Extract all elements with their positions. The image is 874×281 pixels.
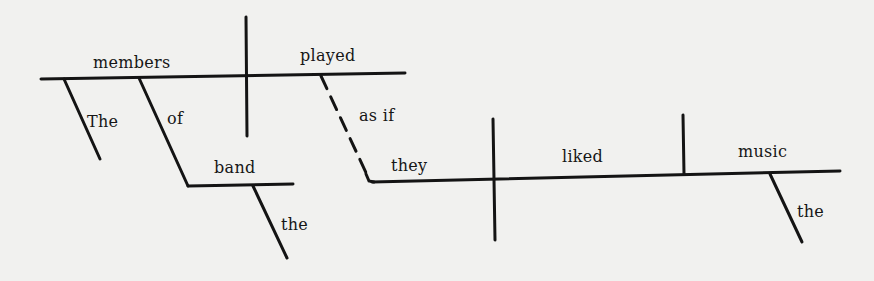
word-as-if: as if xyxy=(359,108,394,124)
word-members: members xyxy=(93,55,170,71)
sentence-diagram: members played The of band the as if the… xyxy=(0,0,874,281)
verb-object-divider xyxy=(683,115,684,174)
main-subject-verb-divider xyxy=(246,17,247,136)
subordinate-subject-verb-divider xyxy=(493,119,495,240)
diagram-lines xyxy=(0,0,874,281)
word-band: band xyxy=(214,160,256,176)
word-liked: liked xyxy=(562,149,603,165)
word-of: of xyxy=(167,111,183,127)
word-music: music xyxy=(738,144,787,160)
as-if-connector-dashed xyxy=(321,76,368,177)
word-they: they xyxy=(391,158,427,174)
band-object-line xyxy=(188,184,293,186)
word-the-band: the xyxy=(281,217,308,233)
word-The: The xyxy=(87,114,118,130)
word-the-music: the xyxy=(797,204,824,220)
of-preposition-slant xyxy=(139,78,188,186)
main-baseline xyxy=(41,73,405,79)
word-played: played xyxy=(300,48,355,64)
